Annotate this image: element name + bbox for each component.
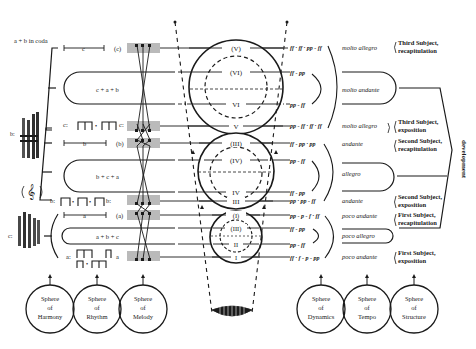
svg-text:poco allegro: poco allegro: [341, 232, 376, 239]
svg-text:(c): (c): [114, 45, 121, 53]
svg-text:Harmony: Harmony: [38, 313, 63, 320]
melody-crossing-lines: [137, 45, 150, 259]
svg-text:ff · f - p - pp: ff · f - p - pp: [290, 255, 319, 261]
svg-text:of: of: [47, 304, 53, 311]
left-bracket-bottom: [44, 214, 58, 258]
theme-row-c-top: c (c): [64, 45, 121, 53]
svg-text:b: b: [83, 140, 86, 147]
svg-text:pp - ff · ff · ff: pp - ff · ff · ff: [289, 123, 323, 129]
harmony-chord-cluster-c: [18, 212, 40, 248]
svg-text:Tempo: Tempo: [358, 313, 376, 320]
svg-text:Structure: Structure: [402, 313, 426, 320]
svg-text:III: III: [233, 198, 241, 206]
svg-text:ff - pp: ff - pp: [290, 190, 305, 196]
svg-text:c: c: [82, 45, 85, 52]
svg-text:Sphere: Sphere: [312, 295, 330, 302]
sphere-dynamics: Sphere of Dynamics: [297, 274, 345, 333]
svg-text:pp - ff: pp - ff: [289, 102, 306, 108]
svg-text:ff - pp: ff - pp: [290, 70, 305, 76]
harmony-c-label: c:: [8, 233, 13, 239]
structure-labels: Third Subject, recapitulation Third Subj…: [398, 39, 442, 264]
svg-text:•: •: [95, 123, 97, 129]
svg-text:poco andante: poco andante: [341, 212, 377, 219]
svg-text:𝄞: 𝄞: [27, 184, 35, 200]
sphere-rhythm: Sphere of Rhythm: [73, 274, 121, 333]
svg-text:c:: c:: [63, 121, 68, 128]
svg-text:•: •: [89, 199, 91, 205]
harmony-b-label: b:: [10, 131, 15, 137]
svg-text:pp - ff: pp - ff: [289, 158, 306, 164]
svg-text:c:: c:: [119, 121, 124, 128]
lens-icon: [212, 305, 252, 316]
svg-text:ff - pp · pp: ff - pp · pp: [290, 141, 315, 147]
svg-text:b + c + a: b + c + a: [96, 173, 119, 180]
svg-text:of: of: [364, 304, 370, 311]
svg-text:Third Subject,: Third Subject,: [398, 39, 439, 46]
svg-text:Melody: Melody: [133, 313, 154, 320]
svg-text:•: •: [86, 261, 88, 267]
loop-abc: a + b + c: [62, 228, 175, 244]
svg-text:Sphere: Sphere: [41, 295, 59, 302]
svg-text:(I): (I): [233, 212, 240, 220]
svg-text:I: I: [235, 254, 237, 261]
svg-text:VI: VI: [232, 101, 240, 109]
loop-cab: c + a + b: [64, 72, 175, 104]
svg-text:pp - p - f · ff: pp - p - f · ff: [289, 213, 320, 219]
svg-text:recapitulation: recapitulation: [398, 145, 437, 152]
svg-text:pp - ff: pp - ff: [289, 242, 306, 248]
svg-text:exposition: exposition: [398, 257, 427, 264]
svg-text:recapitulation: recapitulation: [398, 219, 437, 226]
svg-text:(III): (III): [231, 225, 242, 233]
harmony-chord-cluster-b: [20, 112, 39, 159]
svg-text:Sphere: Sphere: [88, 295, 106, 302]
svg-text:V: V: [233, 123, 238, 131]
theme-row-a: a (a): [64, 212, 123, 220]
svg-text:•: •: [72, 199, 74, 205]
svg-text:pp · pp - ff: pp · pp - ff: [289, 198, 316, 204]
rhythm-row-a: a: • a: [66, 250, 119, 268]
circle-bottom: (I) (III) II I: [210, 211, 262, 263]
sphere-tempo: Sphere of Tempo: [343, 274, 391, 333]
svg-text:a: a: [83, 212, 86, 219]
loop-bca: b + c + a: [64, 160, 175, 192]
sphere-harmony: Sphere of Harmony: [26, 274, 74, 333]
theme-row-b: b (b): [64, 140, 124, 148]
svg-text:a:: a:: [66, 253, 71, 260]
treble-clef-icon: 𝄞: [22, 184, 42, 200]
svg-text:molto allegro: molto allegro: [342, 122, 378, 129]
svg-text:II: II: [234, 241, 238, 248]
svg-text:exposition: exposition: [398, 201, 427, 208]
circle-middle: (III) (IV) IV III: [198, 133, 274, 209]
svg-text:(IV): (IV): [230, 157, 243, 165]
svg-text:andante: andante: [342, 140, 363, 147]
svg-text:ff - pp: ff - pp: [290, 226, 305, 232]
rhythm-row-c: c: • c:: [63, 121, 124, 130]
svg-text:of: of: [411, 304, 417, 311]
sphere-melody: Sphere of Melody: [119, 274, 167, 333]
form-diagram: a + b in coda b: 𝄞 c:: [0, 0, 476, 349]
svg-text:Sphere: Sphere: [358, 295, 376, 302]
svg-text:(a): (a): [116, 212, 123, 220]
development-label: development: [460, 140, 468, 179]
coda-label: a + b in coda: [14, 37, 48, 44]
circle-top: (V) (VI) VI V: [189, 40, 283, 134]
svg-text:Dynamics: Dynamics: [308, 313, 335, 320]
tempo-column: molto allegro molto andante molto allegr…: [341, 44, 379, 260]
svg-text:b:: b:: [50, 197, 55, 204]
funnel-top-dots: [174, 21, 289, 24]
svg-text:Second Subject,: Second Subject,: [398, 193, 442, 200]
svg-text:poco andante: poco andante: [341, 253, 377, 260]
rhythm-row-b: b: • • b:: [50, 197, 111, 206]
svg-text:(V): (V): [231, 45, 241, 53]
svg-text:First Subject,: First Subject,: [398, 249, 436, 256]
svg-text:Rhythm: Rhythm: [87, 313, 108, 320]
svg-text:a + b + c: a + b + c: [96, 233, 119, 240]
svg-text:allegro: allegro: [342, 170, 361, 177]
svg-text:(b): (b): [116, 140, 124, 148]
svg-text:(III): (III): [230, 140, 242, 148]
svg-text:a: a: [116, 253, 119, 260]
svg-text:exposition: exposition: [398, 126, 427, 133]
left-bracket-top: [46, 48, 58, 130]
svg-text:c + a + b: c + a + b: [96, 86, 119, 93]
sphere-structure: Sphere of Structure: [390, 274, 438, 333]
